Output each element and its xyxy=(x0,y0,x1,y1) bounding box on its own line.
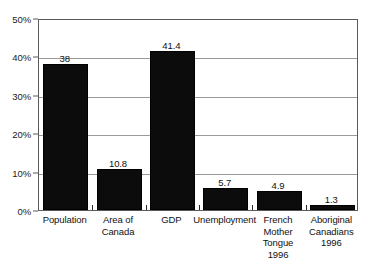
y-axis-tick-label: 10% xyxy=(12,167,31,178)
x-axis-tick-mark xyxy=(252,205,253,210)
x-axis-label-line: Tongue xyxy=(263,237,294,249)
x-axis-label-line: Aboriginal xyxy=(309,214,354,226)
x-axis-tick-mark xyxy=(306,205,307,210)
y-axis-tick-label: 0% xyxy=(17,206,31,217)
x-axis-category-label: Area ofCanada xyxy=(102,214,135,237)
x-axis-label-line: Canadians xyxy=(309,226,354,238)
x-axis-label-line: Mother xyxy=(263,226,294,238)
bar xyxy=(97,169,142,210)
x-axis-label-line: GDP xyxy=(161,214,181,226)
bar xyxy=(203,188,248,210)
bar-value-label: 38 xyxy=(59,53,69,64)
bar-value-label: 1.3 xyxy=(325,194,338,205)
x-axis-label-line: Area of xyxy=(102,214,135,226)
bar-value-label: 4.9 xyxy=(272,180,285,191)
x-axis-tick-mark xyxy=(146,205,147,210)
y-axis: 0%10%20%30%40%50% xyxy=(0,0,38,277)
bar-value-label: 5.7 xyxy=(218,177,231,188)
bar-value-label: 41.4 xyxy=(162,40,180,51)
x-axis-label-line: Unemployment xyxy=(193,214,256,226)
x-axis-category-label: FrenchMotherTongue1996 xyxy=(263,214,294,260)
x-axis-label-line: French xyxy=(263,214,294,226)
bar-chart-figure: 0%10%20%30%40%50% 3810.841.45.74.91.3 Po… xyxy=(0,0,370,277)
bar xyxy=(310,205,355,210)
y-axis-tick-label: 30% xyxy=(12,90,31,101)
bar xyxy=(257,191,302,210)
x-axis-tick-mark xyxy=(199,205,200,210)
x-axis-category-label: Unemployment xyxy=(193,214,256,226)
bar-value-label: 10.8 xyxy=(109,158,127,169)
y-axis-tick-label: 20% xyxy=(12,129,31,140)
bar xyxy=(150,51,195,210)
x-axis-category-label: Population xyxy=(43,214,87,226)
y-axis-tick-label: 50% xyxy=(12,14,31,25)
x-axis-tick-mark xyxy=(92,205,93,210)
y-axis-tick-label: 40% xyxy=(12,52,31,63)
x-axis-label-line: Canada xyxy=(102,226,135,238)
x-axis-label-line: 1996 xyxy=(263,249,294,261)
bar xyxy=(43,64,88,210)
x-axis-label-line: 1996 xyxy=(309,237,354,249)
x-axis-category-label: GDP xyxy=(161,214,181,226)
x-axis-label-line: Population xyxy=(43,214,87,226)
x-axis: PopulationArea ofCanadaGDPUnemploymentFr… xyxy=(38,214,358,274)
plot-area xyxy=(38,19,358,211)
x-axis-category-label: AboriginalCanadians1996 xyxy=(309,214,354,249)
gridline xyxy=(39,58,357,59)
